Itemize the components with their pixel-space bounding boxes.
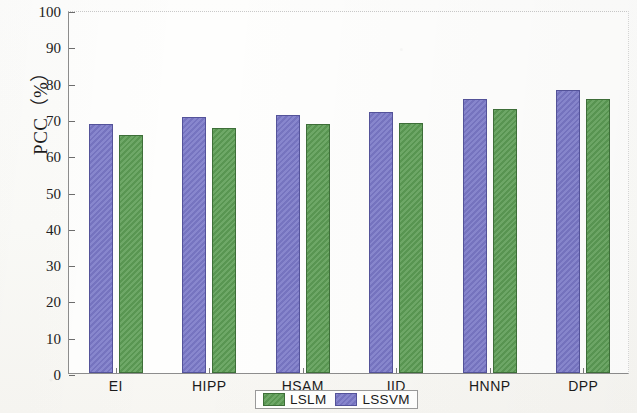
- bar-lslm[interactable]: [306, 124, 330, 373]
- bar-chart-figure: PCC（%） 0102030405060708090100 EIHIPPHSAM…: [0, 0, 637, 413]
- bar-group: [556, 12, 610, 373]
- bar-lssvm[interactable]: [182, 117, 206, 373]
- bar-lssvm[interactable]: [89, 124, 113, 373]
- chart-legend: LSLM LSSVM: [255, 390, 418, 409]
- y-tick-label: 0: [23, 367, 61, 384]
- x-tick-mark: [396, 368, 397, 373]
- bar-group: [276, 12, 330, 373]
- bar-lssvm[interactable]: [276, 115, 300, 373]
- y-tick-label: 90: [23, 40, 61, 57]
- bar-lslm[interactable]: [493, 109, 517, 373]
- y-tick-mark: [69, 375, 75, 376]
- y-tick-label: 30: [23, 258, 61, 275]
- blue-swatch-icon: [335, 393, 357, 406]
- x-tick-mark: [490, 368, 491, 373]
- x-tick-mark: [116, 368, 117, 373]
- plot-area: 0102030405060708090100 EIHIPPHSAMIIDHNNP…: [68, 11, 629, 374]
- legend-item-lssvm[interactable]: LSSVM: [335, 392, 409, 407]
- y-tick-label: 10: [23, 330, 61, 347]
- bar-lslm[interactable]: [586, 99, 610, 373]
- legend-item-lslm[interactable]: LSLM: [263, 392, 326, 407]
- x-tick-label: DPP: [528, 378, 637, 394]
- y-tick-label: 100: [23, 4, 61, 21]
- legend-label-lslm: LSLM: [290, 392, 326, 407]
- y-tick-label: 60: [23, 149, 61, 166]
- bar-lslm[interactable]: [212, 128, 236, 373]
- bar-lssvm[interactable]: [556, 90, 580, 373]
- y-tick-label: 80: [23, 76, 61, 93]
- y-tick-label: 50: [23, 185, 61, 202]
- legend-label-lssvm: LSSVM: [362, 392, 409, 407]
- x-tick-mark: [583, 368, 584, 373]
- bar-group: [369, 12, 423, 373]
- bar-lslm[interactable]: [119, 135, 143, 373]
- x-tick-mark: [303, 368, 304, 373]
- bar-group: [89, 12, 143, 373]
- bar-group: [182, 12, 236, 373]
- bar-series-container: [69, 12, 628, 373]
- y-tick-label: 70: [23, 112, 61, 129]
- bar-group: [463, 12, 517, 373]
- bar-lssvm[interactable]: [369, 112, 393, 373]
- x-tick-mark: [209, 368, 210, 373]
- green-swatch-icon: [263, 393, 285, 406]
- y-tick-label: 40: [23, 221, 61, 238]
- bar-lssvm[interactable]: [463, 99, 487, 373]
- y-tick-label: 20: [23, 294, 61, 311]
- bar-lslm[interactable]: [399, 123, 423, 373]
